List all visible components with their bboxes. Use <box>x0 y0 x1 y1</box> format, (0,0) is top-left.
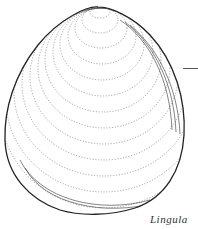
figure-caption: Lingula <box>150 213 188 225</box>
shell-outline <box>5 7 184 214</box>
shell-illustration <box>0 0 198 229</box>
tick-mark <box>183 68 198 69</box>
